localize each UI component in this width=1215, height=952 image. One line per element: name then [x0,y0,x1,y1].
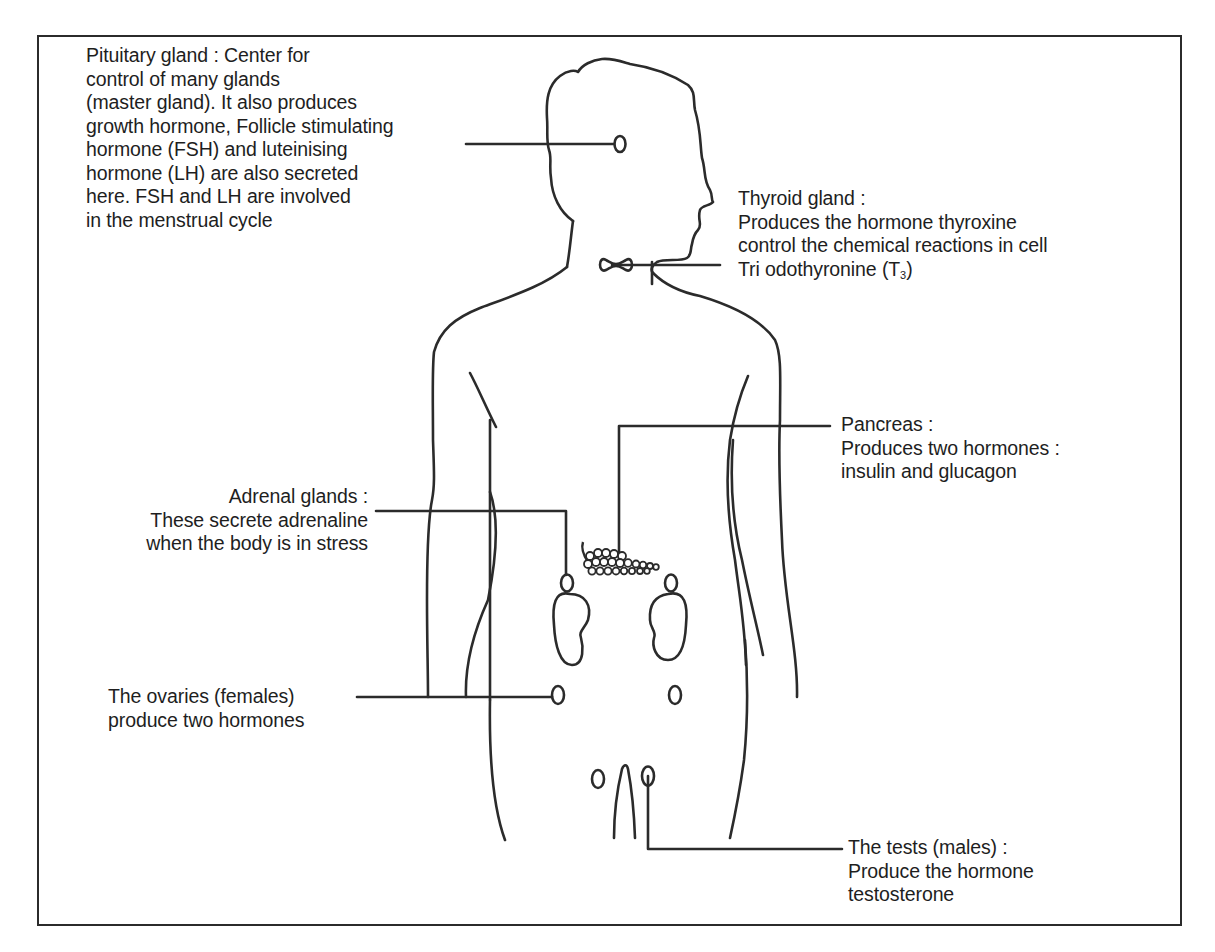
adrenal-leader [376,511,566,575]
adrenal-gland-right [665,575,677,592]
pituitary-label-line: growth hormone, Follicle stimulating [86,115,393,139]
pituitary-label-line: here. FSH and LH are involved [86,185,393,209]
adrenal-label-line: Adrenal glands : [146,485,368,509]
left-hip-outline [490,700,505,840]
kidney-right [650,593,687,660]
ovary-left [552,686,564,704]
ovaries-label-line: The ovaries (females) [108,685,304,709]
ovary-right [669,686,681,704]
pituitary-label: Pituitary gland : Center for control of … [86,44,393,232]
left-torso-outline [427,267,567,697]
testes-label: The tests (males) : Produce the hormone … [848,836,1034,907]
testes-label-line: The tests (males) : [848,836,1034,860]
pancreas-gland [582,542,658,575]
pituitary-label-line: Pituitary gland : Center for [86,44,393,68]
testes-label-line: testosterone [848,883,1034,907]
right-hip-outline [730,640,747,838]
adrenal-label-line: when the body is in stress [146,532,368,556]
pituitary-label-line: control of many glands [86,68,393,92]
adrenal-label-line: These secrete adrenaline [146,509,368,533]
pituitary-label-line: hormone (FSH) and luteinising [86,138,393,162]
pancreas-label-line: Pancreas : [841,413,1060,437]
testes-leader [648,776,842,849]
ovaries-label: The ovaries (females) produce two hormon… [108,685,304,732]
left-arm-inner [470,373,496,700]
thyroid-label: Thyroid gland : Produces the hormone thy… [738,187,1047,287]
right-arm-inner [728,376,748,665]
pancreas-label-line: insulin and glucagon [841,460,1060,484]
t3-prefix: Tri odothyronine (T [738,258,900,280]
pituitary-label-line: in the menstrual cycle [86,209,393,233]
adrenal-gland-left [561,575,573,592]
t3-suffix: ) [906,258,912,280]
left-waist-curve [466,492,496,697]
neck-left [567,221,573,267]
ovaries-label-line: produce two hormones [108,709,304,733]
pancreas-label: Pancreas : Produces two hormones : insul… [841,413,1060,484]
legs-inner [614,765,635,838]
pituitary-label-line: (master gland). It also produces [86,91,393,115]
thyroid-label-line: Thyroid gland : [738,187,1047,211]
testes-label-line: Produce the hormone [848,860,1034,884]
kidney-left [553,593,589,665]
pancreas-label-line: Produces two hormones : [841,437,1060,461]
pituitary-label-line: hormone (LH) are also secreted [86,162,393,186]
thyroid-label-line: control the chemical reactions in cell [738,234,1047,258]
testis-left [592,770,604,788]
right-arm-inner-2 [732,440,763,655]
adrenal-label: Adrenal glands : These secrete adrenalin… [146,485,368,556]
pancreas-leader [619,426,830,556]
pituitary-gland [615,136,626,152]
thyroid-label-line: Produces the hormone thyroxine [738,211,1047,235]
right-torso-outline [653,273,797,697]
thyroid-label-t3-line: Tri odothyronine (T3) [738,258,1047,288]
